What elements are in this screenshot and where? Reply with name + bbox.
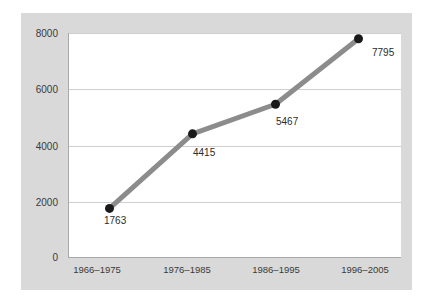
data-label-3: 5467 [276,117,298,127]
data-label-2: 4415 [193,148,215,158]
data-label-4: 7795 [372,48,394,58]
chart-figure: 8000 6000 4000 2000 0 1966–1975 1976–198… [0,0,432,308]
data-point-marker [105,204,114,213]
data-point-marker [354,34,363,43]
data-label-1: 1763 [104,216,126,226]
data-point-marker [188,129,197,138]
data-point-marker [271,100,280,109]
data-series-line [0,0,432,308]
